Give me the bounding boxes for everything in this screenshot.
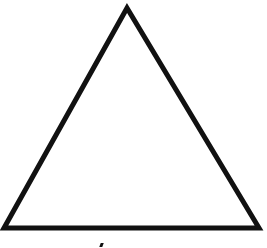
triangle-diagram xyxy=(0,0,267,248)
triangle-outline xyxy=(4,8,259,228)
